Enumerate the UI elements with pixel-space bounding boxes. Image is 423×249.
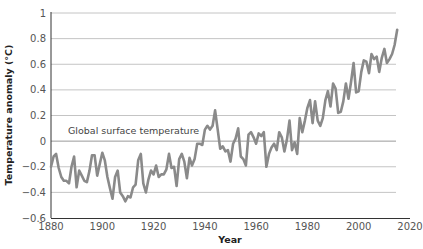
y-tick-label: 0.4 bbox=[30, 84, 46, 95]
x-axis-ticks: 18801900192019401960198020002020 bbox=[38, 221, 422, 232]
y-tick-label: −0.4 bbox=[22, 187, 46, 198]
y-tick-label: 1 bbox=[40, 8, 46, 19]
x-tick-label: 1960 bbox=[243, 221, 268, 232]
x-tick-label: 2020 bbox=[397, 221, 422, 232]
x-tick-label: 1900 bbox=[90, 221, 115, 232]
x-tick-label: 1920 bbox=[141, 221, 166, 232]
x-axis-title: Year bbox=[217, 234, 242, 245]
x-tick-label: 1940 bbox=[192, 221, 217, 232]
y-tick-label: 0.2 bbox=[30, 110, 46, 121]
y-tick-label: 0.6 bbox=[30, 59, 46, 70]
y-tick-label: −0.2 bbox=[22, 161, 46, 172]
temperature-chart: 10.80.60.40.20−0.2−0.4−0.6 1880190019201… bbox=[0, 0, 423, 249]
x-tick-label: 1980 bbox=[295, 221, 320, 232]
y-axis-title: Temperature anomaly (°C) bbox=[3, 45, 14, 186]
series-annotation: Global surface temperature bbox=[68, 125, 199, 136]
x-tick-label: 1880 bbox=[38, 221, 63, 232]
x-tick-label: 2000 bbox=[346, 221, 371, 232]
y-tick-label: 0 bbox=[40, 136, 46, 147]
y-tick-label: 0.8 bbox=[30, 33, 46, 44]
y-axis-ticks: 10.80.60.40.20−0.2−0.4−0.6 bbox=[22, 8, 46, 224]
